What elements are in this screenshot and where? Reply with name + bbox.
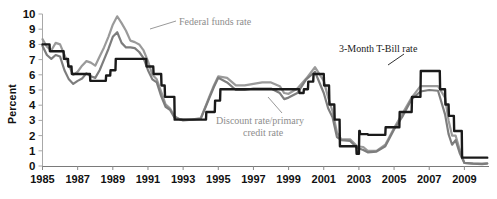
- y-tick-label: 6: [29, 69, 35, 81]
- y-tick-label: 1: [29, 145, 36, 157]
- x-tick-label: 1995: [206, 173, 230, 185]
- x-tick-label: 1987: [65, 173, 89, 185]
- y-tick-label: 2: [29, 130, 35, 142]
- x-tick-label: 2007: [417, 173, 441, 185]
- y-tick-label: 7: [29, 54, 35, 66]
- x-tick-label: 2009: [452, 173, 476, 185]
- x-tick-label: 2001: [312, 173, 336, 185]
- x-tick-label: 1999: [276, 173, 300, 185]
- x-tick-label: 1985: [30, 173, 54, 185]
- interest-rates-chart: 012345678910 198519871989199119931995199…: [0, 0, 497, 199]
- y-axis-title: Percent: [6, 84, 18, 124]
- y-tick-label: 0: [29, 160, 35, 172]
- y-tick-label: 8: [29, 38, 36, 50]
- tbill-rate-label: 3-Month T-Bill rate: [339, 43, 418, 54]
- chart-canvas: 012345678910 198519871989199119931995199…: [0, 0, 497, 199]
- chart-background: [0, 0, 497, 199]
- discount-rate-label-line1: Discount rate/primary: [216, 115, 304, 126]
- y-tick-label: 5: [29, 84, 36, 96]
- y-tick-label: 4: [29, 99, 36, 111]
- x-tick-label: 1991: [136, 173, 160, 185]
- x-tick-label: 1989: [101, 173, 125, 185]
- x-tick-label: 1993: [171, 173, 195, 185]
- x-tick-label: 1997: [241, 173, 265, 185]
- x-tick-label: 2003: [347, 173, 371, 185]
- y-tick-label: 10: [23, 8, 36, 20]
- x-tick-label: 2005: [382, 173, 406, 185]
- discount-rate-label-line2: credit rate: [243, 127, 284, 138]
- y-tick-label: 9: [29, 23, 35, 35]
- y-tick-label: 3: [29, 114, 35, 126]
- federal-funds-rate-label: Federal funds rate: [179, 16, 252, 27]
